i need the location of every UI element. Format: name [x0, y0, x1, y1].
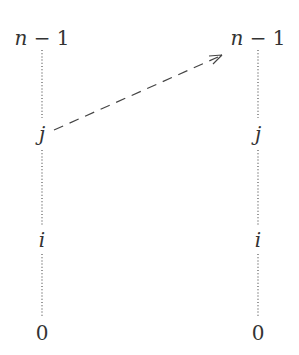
minus-one: − 1: [27, 26, 69, 50]
right-label-0: 0: [252, 323, 265, 343]
right-label-n-minus-1: n − 1: [230, 28, 285, 48]
diagram-canvas: [0, 0, 299, 355]
left-label-n-minus-1: n − 1: [14, 28, 69, 48]
var-n: n: [14, 26, 27, 50]
left-label-i: i: [39, 230, 45, 250]
right-label-j: j: [255, 124, 261, 144]
right-label-i: i: [255, 230, 261, 250]
left-label-0: 0: [36, 323, 49, 343]
left-label-j: j: [39, 124, 45, 144]
var-n: n: [230, 26, 243, 50]
dashed-arrow: [54, 57, 218, 130]
minus-one: − 1: [243, 26, 285, 50]
